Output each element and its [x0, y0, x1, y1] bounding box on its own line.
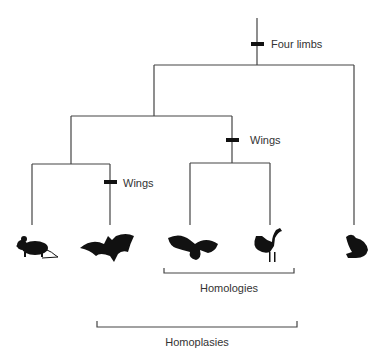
frog-icon — [346, 235, 368, 258]
mouse-icon — [16, 236, 58, 258]
bat-wings-label: Wings — [123, 177, 154, 189]
bat-wings-marker — [104, 180, 117, 184]
homoplasies-label: Homoplasies — [165, 336, 229, 348]
four-limbs-marker — [251, 42, 264, 46]
eagle-icon — [168, 235, 218, 260]
rooster-icon — [254, 228, 282, 262]
four-limbs-label: Four limbs — [271, 38, 323, 50]
bird-wings-label: Wings — [250, 134, 281, 146]
bat-icon — [80, 234, 134, 262]
cladogram-svg: Four limbs Wings Wings Homologies Homopl… — [0, 0, 385, 358]
homologies-label: Homologies — [200, 282, 259, 294]
homologies-bracket — [164, 268, 294, 273]
cladogram-diagram: Four limbs Wings Wings Homologies Homopl… — [0, 0, 385, 358]
bird-wings-marker — [226, 138, 239, 142]
homoplasies-bracket — [97, 321, 297, 327]
